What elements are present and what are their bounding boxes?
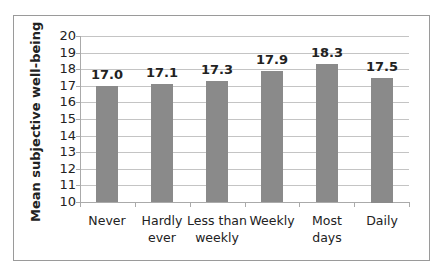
value-label: 17.0	[82, 67, 132, 82]
y-tick-label: 13	[56, 145, 76, 159]
gridline	[80, 185, 409, 186]
y-tick-label: 10	[56, 195, 76, 209]
x-tick-mark	[409, 202, 410, 207]
gridline	[80, 169, 409, 170]
gridline	[80, 102, 409, 103]
value-label: 17.5	[357, 59, 407, 74]
y-tick-label: 16	[56, 95, 76, 109]
value-label: 17.9	[247, 52, 297, 67]
y-tick-label: 12	[56, 162, 76, 176]
x-tick-label-line: days	[292, 229, 362, 246]
x-tick-mark	[354, 202, 355, 207]
bar-most-days	[316, 64, 338, 202]
value-label: 17.1	[137, 65, 187, 80]
x-tick-mark	[190, 202, 191, 207]
bar-never	[96, 86, 118, 202]
x-tick-mark	[80, 202, 81, 207]
y-tick-label: 17	[56, 79, 76, 93]
y-axis-title: Mean subjective well-being	[28, 22, 48, 222]
y-tick-label: 19	[56, 46, 76, 60]
y-axis-line	[80, 36, 81, 203]
gridline	[80, 86, 409, 87]
x-tick-mark	[135, 202, 136, 207]
y-tick-label: 20	[56, 29, 76, 43]
bar-weekly	[261, 71, 283, 202]
gridline	[80, 136, 409, 137]
gridline	[80, 119, 409, 120]
y-tick-label: 11	[56, 178, 76, 192]
bar-daily	[371, 78, 393, 203]
value-label: 18.3	[302, 45, 352, 60]
x-tick-mark	[299, 202, 300, 207]
value-label: 17.3	[192, 62, 242, 77]
x-tick-label-line: weekly	[182, 229, 252, 246]
x-tick-label-line: Daily	[347, 212, 417, 229]
y-tick-label: 14	[56, 129, 76, 143]
x-tick-mark	[245, 202, 246, 207]
y-tick-label: 18	[56, 62, 76, 76]
y-tick-label: 15	[56, 112, 76, 126]
gridline	[80, 53, 409, 54]
gridline	[80, 152, 409, 153]
gridline	[80, 36, 409, 37]
x-tick-label: Daily	[347, 212, 417, 229]
bar-less-than-weekly	[206, 81, 228, 202]
bar-hardly-ever	[151, 84, 173, 202]
